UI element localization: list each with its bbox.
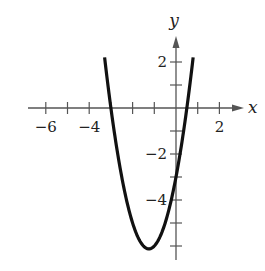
y-tick-label: −4 (145, 191, 167, 209)
y-tick-label: 2 (157, 53, 167, 71)
x-tick-label: −6 (35, 118, 57, 136)
x-axis-label: x (248, 97, 258, 117)
parabola-graph: −6−422−2−4xy (0, 0, 265, 271)
x-axis-arrow-icon (232, 105, 244, 112)
x-tick-label: −4 (78, 118, 100, 136)
y-tick-label: −2 (145, 145, 167, 163)
y-axis-label: y (168, 10, 179, 30)
plot-area: −6−422−2−4xy (0, 0, 265, 271)
y-axis-arrow-icon (173, 36, 180, 48)
x-tick-label: 2 (215, 118, 225, 136)
